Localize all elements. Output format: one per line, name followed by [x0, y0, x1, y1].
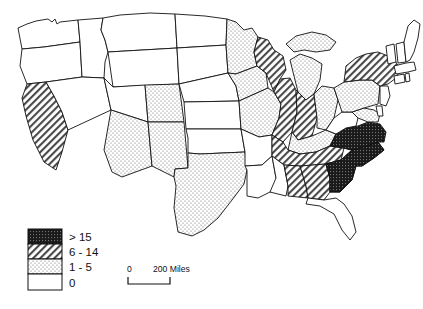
scale-bar: 0 200 Miles	[127, 264, 190, 284]
state-NJ[interactable]	[380, 86, 390, 106]
state-OK[interactable]	[186, 129, 245, 154]
state-KS[interactable]	[184, 101, 241, 129]
legend-label-6-14: 6 - 14	[69, 246, 99, 258]
state-MT[interactable]	[101, 13, 177, 52]
legend: > 15 6 - 14 1 - 5 0	[28, 229, 99, 290]
state-MN[interactable]	[226, 19, 258, 74]
legend-label-0: 0	[69, 277, 75, 289]
state-RI[interactable]	[405, 73, 410, 82]
state-FL[interactable]	[306, 198, 356, 240]
legend-swatch-0	[28, 274, 62, 290]
map-canvas: > 15 6 - 14 1 - 5 0 0 200 Miles	[0, 0, 423, 309]
legend-swatch-gt15	[28, 229, 62, 244]
state-PA[interactable]	[334, 80, 380, 112]
state-CT[interactable]	[394, 74, 405, 84]
legend-label-1-5: 1 - 5	[69, 261, 92, 273]
state-WY[interactable]	[108, 48, 179, 87]
state-ND[interactable]	[175, 14, 227, 48]
legend-label-gt15: > 15	[69, 231, 92, 243]
scale-bar-line	[128, 277, 170, 284]
states-layer	[18, 13, 420, 240]
figure-title-cropped	[0, 0, 423, 2]
state-CO[interactable]	[145, 84, 184, 122]
legend-swatch-6-14	[28, 244, 62, 259]
state-VT[interactable]	[386, 44, 396, 64]
us-choropleth-map: > 15 6 - 14 1 - 5 0 0 200 Miles	[0, 0, 423, 309]
state-ME[interactable]	[404, 20, 420, 62]
scale-end-label: 200 Miles	[153, 264, 190, 274]
legend-swatch-1-5	[28, 259, 62, 274]
state-OR[interactable]	[20, 42, 82, 84]
scale-start-label: 0	[127, 264, 132, 274]
